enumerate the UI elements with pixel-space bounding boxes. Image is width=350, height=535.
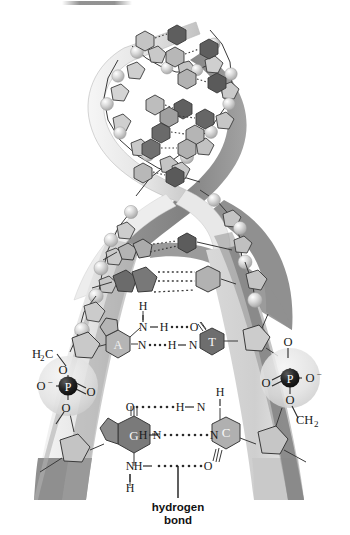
hydrogen-bond-label-line2: bond <box>164 514 192 526</box>
at-bond1-left-atom: N <box>139 320 148 334</box>
dna-diagram-canvas: H N H O N H N A T O H N H N H N N O H G … <box>0 0 350 535</box>
gc-bond2-left-atom: N <box>153 428 162 442</box>
gc-bond1-bridge: H <box>176 400 185 414</box>
guanine-letter: G <box>129 428 138 443</box>
phosphate-left-ch2-sub: 2 <box>40 353 45 363</box>
adenine-letter: A <box>113 338 122 352</box>
at-bond1-right-atom: O <box>190 320 199 334</box>
at-bond2-right-atom: N <box>189 338 198 352</box>
phosphate-left-o-double: O <box>86 385 95 399</box>
gc-bond2-right-atom: N <box>210 428 219 442</box>
gc-bond1-left-atom: O <box>126 400 135 414</box>
scan-smudge <box>62 1 132 5</box>
phosphate-right-o-bottom: O <box>285 393 294 407</box>
gc-bond3-bridge: H <box>134 459 143 473</box>
dna-figure: H N H O N H N A T O H N H N H N N O H G … <box>0 0 350 535</box>
phosphate-right-ch2-main: CH <box>296 413 313 427</box>
phosphate-right-o-top: O <box>283 335 292 349</box>
at-amine-h-label: H <box>139 299 148 313</box>
phosphate-left-o-minus: O <box>36 379 45 393</box>
phosphate-right-minus-sign: − <box>316 369 321 379</box>
at-bond1-bridge: H <box>160 320 169 334</box>
phosphate-left-o-top: O <box>58 363 67 377</box>
hydrogen-bond-label-line1: hydrogen <box>152 501 204 513</box>
gc-bond3-right-atom: O <box>204 459 213 473</box>
gc-bond2-bridge: H <box>139 428 148 442</box>
at-bond2-bridge: H <box>168 338 177 352</box>
gc-amine-h-bottom: H <box>126 481 135 495</box>
thymine-letter: T <box>208 335 216 349</box>
phosphate-right-ch2-sub: 2 <box>314 419 319 429</box>
phosphate-right-o-minus: O <box>305 371 314 385</box>
phosphate-right-o-double: O <box>261 376 270 390</box>
gc-bond1-right-atom: N <box>197 400 206 414</box>
phosphate-left-p-letter: P <box>65 380 72 394</box>
cytosine-letter: C <box>222 425 231 440</box>
phosphate-left-minus-sign: − <box>47 377 52 387</box>
gc-amine-h-top: H <box>216 385 225 399</box>
phosphate-left-o-bottom: O <box>61 401 70 415</box>
at-bond2-left-atom: N <box>138 338 147 352</box>
phosphate-left-ch2-tail: C <box>45 347 53 361</box>
phosphate-right-p-letter: P <box>287 372 294 386</box>
